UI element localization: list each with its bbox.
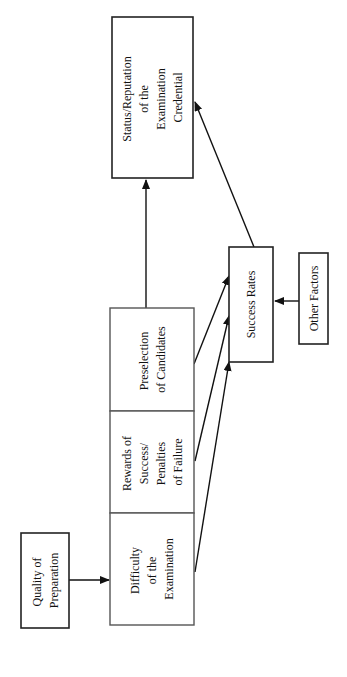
edge-rewards-to-success [195, 316, 229, 461]
node-quality: Quality of Preparation [21, 533, 69, 628]
node-rewards: Rewards of Success/ Penalties of Failure [110, 411, 194, 513]
node-success-label: Success Rates [244, 270, 258, 338]
node-other: Other Factors [299, 253, 328, 344]
diagram-canvas: Status/Reputation of the Examination Cre… [0, 0, 347, 677]
edge-success-to-status [195, 102, 254, 247]
node-other-label: Other Factors [307, 265, 321, 331]
node-preselection: Preselection of Candidates [110, 308, 194, 411]
edge-preselection-to-success [194, 276, 229, 364]
node-status: Status/Reputation of the Examination Cre… [112, 17, 193, 178]
node-difficulty: Difficulty of the Examination [110, 513, 194, 625]
node-success: Success Rates [229, 247, 273, 362]
edge-difficulty-to-success [195, 362, 229, 572]
